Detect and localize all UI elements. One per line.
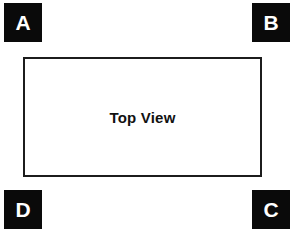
corner-marker-b-label: B	[263, 11, 278, 34]
corner-marker-a-label: A	[15, 11, 30, 34]
corner-marker-a: A	[4, 3, 42, 42]
corner-marker-d: D	[4, 190, 42, 229]
top-view-rectangle: Top View	[23, 57, 262, 177]
corner-marker-c: C	[252, 190, 290, 229]
top-view-diagram: A B Top View D C	[0, 0, 299, 238]
corner-marker-c-label: C	[263, 198, 278, 221]
top-view-label: Top View	[109, 109, 175, 126]
corner-marker-d-label: D	[15, 198, 30, 221]
corner-marker-b: B	[252, 3, 290, 42]
